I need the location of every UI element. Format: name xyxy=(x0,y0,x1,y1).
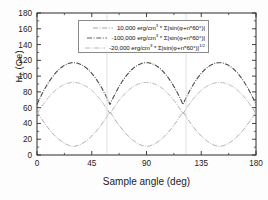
legend-swatch-3 xyxy=(85,44,105,52)
y-axis-label-main: H xyxy=(13,76,24,83)
x-axis-label: Sample angle (deg) xyxy=(37,176,256,187)
legend-item-1: 10,000 erg/cm3 * Σ|sin(φ+n*60°)| xyxy=(82,23,205,33)
y-tick-label: 60 xyxy=(23,104,33,113)
legend-label-1: 10,000 erg/cm3 * Σ|sin(φ+n*60°)| xyxy=(117,23,205,31)
y-axis-label: Hc (Oe) xyxy=(13,31,26,101)
legend-label-2: -100,000 erg/cm3 * Σ|sin(φ+n*60°)| xyxy=(111,33,205,41)
legend-swatch-2 xyxy=(87,34,107,42)
legend-item-2: -100,000 erg/cm3 * Σ|sin(φ+n*60°)| xyxy=(82,33,205,43)
x-tick-label: 45 xyxy=(87,159,97,168)
x-tick-label: 90 xyxy=(142,159,152,168)
legend-label-3: -20,000 erg/cm3 * Σ|sin(φ+n*60°)|1/2 xyxy=(109,43,205,51)
y-tick-label: 180 xyxy=(18,9,32,18)
x-tick-label: 135 xyxy=(194,159,208,168)
y-axis-label-sub: c xyxy=(18,72,25,76)
y-tick-label: 40 xyxy=(23,119,33,128)
legend-swatch-1 xyxy=(93,24,113,32)
figure-panel: 020406080100120140160180 04590135180 Hc … xyxy=(0,0,268,200)
x-tick-label: 0 xyxy=(35,159,40,168)
y-tick-label: 0 xyxy=(27,151,32,160)
y-axis-label-unit: (Oe) xyxy=(13,50,24,72)
chart-legend: 10,000 erg/cm3 * Σ|sin(φ+n*60°)| -100,00… xyxy=(78,20,209,53)
x-tick-label: 180 xyxy=(249,159,263,168)
y-tick-label: 20 xyxy=(23,135,33,144)
legend-item-3: -20,000 erg/cm3 * Σ|sin(φ+n*60°)|1/2 xyxy=(82,43,205,53)
